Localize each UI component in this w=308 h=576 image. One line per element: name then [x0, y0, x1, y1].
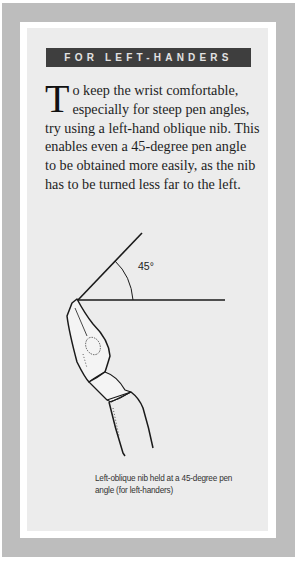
sidebar-frame: FOR LEFT-HANDERS To keep the wrist comfo… — [20, 22, 276, 538]
sidebar-panel: FOR LEFT-HANDERS To keep the wrist comfo… — [27, 28, 268, 531]
pen-nib-diagram — [27, 28, 268, 531]
pen-nib-icon — [67, 299, 153, 456]
figure-caption: Left-oblique nib held at a 45-degree pen… — [95, 473, 235, 496]
sidebar-outer-border: FOR LEFT-HANDERS To keep the wrist comfo… — [2, 3, 295, 557]
angle-label: 45° — [138, 260, 154, 272]
